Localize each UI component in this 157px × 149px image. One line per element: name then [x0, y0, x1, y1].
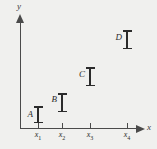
- x-axis-tick: [127, 123, 128, 128]
- x-axis-tick-label: x4: [124, 131, 131, 141]
- error-bar-stem: [89, 67, 91, 86]
- error-bar-stem: [37, 106, 39, 123]
- x-axis-tick-label: x2: [59, 131, 66, 141]
- data-point-label-b: B: [52, 95, 58, 104]
- error-bar-stem: [61, 93, 63, 112]
- tick-label-subscript: 2: [62, 135, 65, 141]
- data-point-label-a: A: [28, 110, 34, 119]
- error-bar-marker-d: [122, 30, 132, 49]
- data-point-label-c: C: [79, 70, 85, 79]
- error-bar-marker-c: [85, 67, 95, 86]
- x-axis-label: x: [147, 123, 151, 132]
- x-axis-tick: [62, 123, 63, 128]
- error-bar-cap-bottom: [123, 48, 132, 50]
- x-axis-tick-label: x3: [87, 131, 94, 141]
- tick-label-subscript: 4: [127, 135, 130, 141]
- error-bar-marker-b: [57, 93, 67, 112]
- y-axis-label: y: [17, 2, 21, 11]
- x-axis-arrow-icon: [136, 125, 145, 133]
- tick-label-subscript: 1: [38, 135, 41, 141]
- error-bar-marker-a: [33, 106, 43, 123]
- y-axis-line: [20, 22, 21, 129]
- error-bar-cap-bottom: [86, 85, 95, 87]
- x-axis-tick: [90, 123, 91, 128]
- error-bar-cap-bottom: [34, 122, 43, 124]
- data-point-label-d: D: [116, 33, 123, 42]
- y-axis-arrow-icon: [16, 14, 24, 23]
- tick-label-subscript: 3: [90, 135, 93, 141]
- x-axis-tick: [38, 123, 39, 128]
- x-axis-line: [20, 128, 138, 129]
- error-bar-cap-bottom: [58, 111, 67, 113]
- x-axis-tick-label: x1: [35, 131, 42, 141]
- error-bar-chart: x y x1 x2 x3 x4 A B C D: [0, 0, 157, 149]
- error-bar-stem: [126, 30, 128, 49]
